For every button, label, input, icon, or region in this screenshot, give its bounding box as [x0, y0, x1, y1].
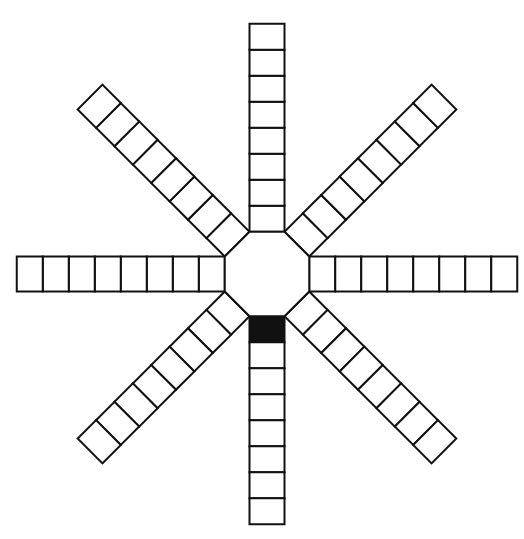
- track-cell: [250, 206, 285, 232]
- track-cell: [250, 154, 285, 180]
- track-cell: [147, 257, 173, 292]
- center-octagon: [225, 232, 310, 317]
- arm-top-left: [78, 85, 250, 257]
- track-cell: [465, 257, 491, 292]
- track-cell: [17, 257, 43, 292]
- track-cell-marked: [250, 316, 285, 342]
- track-cell: [250, 50, 285, 76]
- arm-top-right: [285, 85, 457, 257]
- track-cell: [250, 472, 285, 498]
- track-cell: [95, 257, 121, 292]
- track-cell: [250, 420, 285, 446]
- track-cell: [199, 257, 225, 292]
- track-cell: [309, 257, 335, 292]
- track-cell: [387, 257, 413, 292]
- track-cell: [491, 257, 517, 292]
- track-cell: [250, 180, 285, 206]
- track-cell: [361, 257, 387, 292]
- track-cell: [250, 368, 285, 394]
- track-cell: [250, 24, 285, 50]
- track-cell: [250, 342, 285, 368]
- track-cell: [250, 128, 285, 154]
- track-cell: [439, 257, 465, 292]
- track-cell: [173, 257, 199, 292]
- track-cell: [121, 257, 147, 292]
- track-cell: [250, 76, 285, 102]
- track-cell: [250, 446, 285, 472]
- track-cell: [250, 102, 285, 128]
- arm-bottom-right: [285, 292, 457, 464]
- arm-top: [250, 24, 285, 232]
- track-cell: [69, 257, 95, 292]
- track-cell: [250, 394, 285, 420]
- arm-left: [17, 257, 225, 292]
- track-cell: [413, 257, 439, 292]
- track-cell: [250, 498, 285, 524]
- arm-right: [309, 257, 517, 292]
- arm-bottom-left: [78, 292, 250, 464]
- arm-bottom: [250, 316, 285, 524]
- track-cell: [43, 257, 69, 292]
- radial-board-diagram: [0, 0, 524, 539]
- track-cell: [335, 257, 361, 292]
